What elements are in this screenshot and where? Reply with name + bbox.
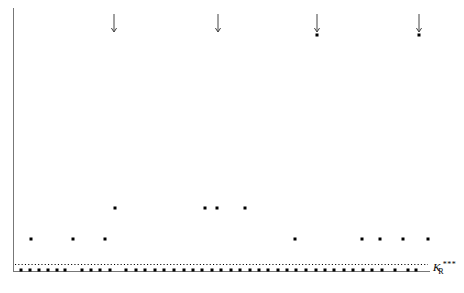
data-point [239, 269, 242, 272]
down-arrow-icon [215, 14, 220, 32]
data-point [220, 269, 223, 272]
data-point [144, 269, 147, 272]
data-point [362, 269, 365, 272]
data-point [352, 269, 355, 272]
down-arrow-icon [416, 14, 421, 32]
data-point [204, 207, 207, 210]
reference-line-label: KR*** [433, 257, 456, 276]
data-point [38, 269, 41, 272]
data-point [295, 269, 298, 272]
data-point [316, 34, 319, 37]
data-point [72, 238, 75, 241]
data-point [216, 207, 219, 210]
data-point [267, 269, 270, 272]
data-point [244, 207, 247, 210]
data-point [30, 238, 33, 241]
data-point [29, 269, 32, 272]
down-arrow-icon [314, 14, 319, 32]
data-point [56, 269, 59, 272]
data-point [294, 238, 297, 241]
data-point [305, 269, 308, 272]
down-arrow-icon [111, 14, 116, 32]
data-point [125, 269, 128, 272]
data-point [249, 269, 252, 272]
data-point [379, 238, 382, 241]
data-point [418, 34, 421, 37]
data-point [415, 269, 418, 272]
data-point [64, 269, 67, 272]
scatter-plot-canvas: KR*** [0, 0, 464, 293]
data-point [333, 269, 336, 272]
data-point [427, 238, 430, 241]
data-point [286, 269, 289, 272]
data-point [183, 269, 186, 272]
data-point [109, 269, 112, 272]
data-point [114, 207, 117, 210]
down-arrow-group [111, 14, 421, 32]
data-point [407, 269, 410, 272]
data-point [20, 269, 23, 272]
data-point [163, 269, 166, 272]
data-point [90, 269, 93, 272]
data-point [135, 269, 138, 272]
data-point [381, 269, 384, 272]
data-point [371, 269, 374, 272]
data-point [277, 269, 280, 272]
data-point [99, 269, 102, 272]
data-point [201, 269, 204, 272]
reference-line-label-superscript: *** [443, 260, 457, 269]
data-point [81, 269, 84, 272]
data-point [211, 269, 214, 272]
data-point [192, 269, 195, 272]
data-point [154, 269, 157, 272]
data-point [230, 269, 233, 272]
data-point [47, 269, 50, 272]
data-point [324, 269, 327, 272]
data-point [361, 238, 364, 241]
data-point [315, 269, 318, 272]
data-point [258, 269, 261, 272]
plot-vector-layer [0, 0, 464, 293]
data-point [343, 269, 346, 272]
data-point [173, 269, 176, 272]
data-point [402, 238, 405, 241]
data-point [104, 238, 107, 241]
data-point [394, 269, 397, 272]
